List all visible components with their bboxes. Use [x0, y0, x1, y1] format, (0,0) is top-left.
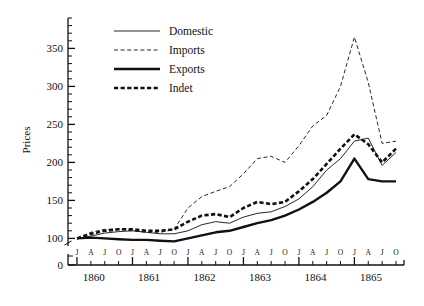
x-year-label: 1860 — [83, 271, 106, 283]
y-axis-title-text: Prices — [20, 127, 32, 154]
x-year-label: 1863 — [249, 271, 272, 283]
x-year-label: 1864 — [305, 271, 328, 283]
x-month-tick-label: J — [381, 248, 384, 257]
x-month-tick-label: O — [227, 248, 233, 257]
x-month-tick-label: J — [103, 248, 106, 257]
y-tick-label-zero: 0 — [58, 259, 64, 271]
x-year-label: 1862 — [194, 271, 216, 283]
y-tick-label: 250 — [47, 118, 64, 130]
x-month-tick-label: O — [171, 248, 177, 257]
x-year-label: 1865 — [360, 271, 383, 283]
x-month-tick-label: J — [297, 248, 300, 257]
x-month-tick-label: O — [116, 248, 122, 257]
x-month-tick-label: O — [393, 248, 399, 257]
series-lines — [77, 37, 396, 241]
chart-figure: Prices 1001502002503003500 JAJOJAJOJAJOJ… — [0, 0, 424, 306]
x-month-tick-label: J — [131, 248, 134, 257]
x-month-tick-label: A — [366, 248, 372, 257]
y-tick-label: 150 — [47, 194, 64, 206]
x-month-tick-label: O — [338, 248, 344, 257]
x-month-tick-label: A — [199, 248, 205, 257]
x-month-tick-label: A — [144, 248, 150, 257]
x-month-tick-label: J — [242, 248, 245, 257]
y-tick-label: 100 — [47, 232, 64, 244]
x-month-tick-label: A — [88, 248, 94, 257]
series-line-domestic — [77, 138, 396, 238]
x-month-tick-label: J — [353, 248, 356, 257]
x-month-tick-label: A — [255, 248, 261, 257]
y-axis: 1001502002503003500 — [47, 18, 76, 271]
x-month-tick-label: J — [186, 248, 189, 257]
x-month-tick-label: J — [325, 248, 328, 257]
legend-label-domestic: Domestic — [169, 25, 213, 37]
y-tick-label: 350 — [47, 42, 64, 54]
series-line-imports — [77, 37, 396, 238]
y-tick-label: 200 — [47, 156, 64, 168]
x-month-tick-label: J — [76, 248, 79, 257]
x-month-tick-label: J — [214, 248, 217, 257]
chart-legend: DomesticImportsExportsIndet — [114, 25, 213, 94]
y-tick-label: 300 — [47, 80, 64, 92]
series-line-indet — [77, 134, 396, 238]
x-axis: JAJOJAJOJAJOJAJOJAJOJAJO1860186118621863… — [68, 248, 404, 283]
x-month-tick-label: O — [282, 248, 288, 257]
legend-label-exports: Exports — [169, 63, 205, 76]
legend-label-imports: Imports — [169, 44, 205, 57]
x-month-tick-label: A — [310, 248, 316, 257]
x-month-tick-label: J — [270, 248, 273, 257]
price-index-line-chart: Prices 1001502002503003500 JAJOJAJOJAJOJ… — [0, 0, 424, 306]
y-axis-title: Prices — [20, 127, 32, 154]
x-year-label: 1861 — [138, 271, 160, 283]
x-month-tick-label: J — [159, 248, 162, 257]
legend-label-indet: Indet — [169, 82, 193, 94]
